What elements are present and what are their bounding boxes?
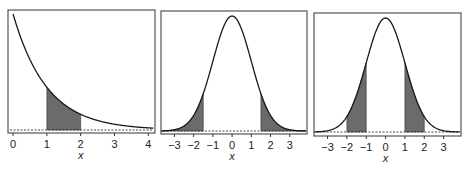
x-tick-label: −1 (207, 139, 220, 151)
plot-frame (161, 11, 307, 134)
x-tick-label: 1 (248, 139, 254, 151)
x-axis-label: x (77, 149, 84, 161)
x-tick-label: 2 (267, 139, 273, 151)
density-curve (161, 16, 306, 131)
x-tick-label: 3 (111, 138, 117, 150)
x-tick-label: 1 (402, 141, 408, 153)
panel-1: 01234x (8, 10, 155, 161)
x-tick-label: −2 (341, 141, 354, 153)
x-tick-label: −1 (360, 141, 373, 153)
shaded-area (261, 94, 306, 131)
x-tick-label: −3 (168, 139, 181, 151)
shaded-area (161, 94, 203, 131)
density-curve (314, 18, 460, 132)
panel-3: −3−2−10123x (314, 13, 461, 164)
x-axis-label: x (382, 152, 389, 164)
panel-2: −3−2−10123x (161, 11, 307, 162)
density-curve (13, 14, 153, 128)
x-axis-label: x (228, 150, 235, 162)
x-tick-label: 1 (44, 138, 50, 150)
x-tick-label: 0 (10, 138, 16, 150)
x-tick-label: 2 (421, 141, 427, 153)
x-tick-label: −3 (321, 141, 334, 153)
x-tick-label: 3 (287, 139, 293, 151)
x-tick-label: 3 (441, 141, 447, 153)
plot-frame (314, 13, 461, 136)
x-tick-label: 4 (145, 138, 151, 150)
chart-figure: 01234x−3−2−10123x−3−2−10123x (0, 0, 470, 173)
x-tick-label: −2 (187, 139, 200, 151)
